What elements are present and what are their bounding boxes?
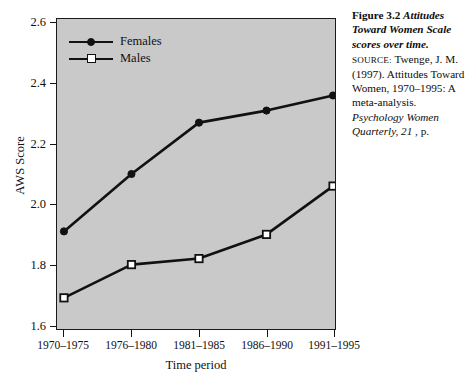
x-tick-mark <box>267 330 268 337</box>
data-point-males <box>329 182 335 189</box>
caption-source-line: SOURCE: Twenge, J. M. (1997). Attitudes … <box>352 52 468 138</box>
y-axis-title: AWS Score <box>13 121 28 211</box>
data-point-females <box>329 92 335 99</box>
figure-caption: Figure 3.2 Attitudes Toward Women Scale … <box>352 8 468 138</box>
source-journal: Psychology <box>352 111 404 123</box>
caption-title-line: Figure 3.2 Attitudes Toward Women Scale … <box>352 8 468 51</box>
legend-swatch-males <box>69 52 113 66</box>
y-tick-label: 1.8 <box>0 259 46 272</box>
x-tick-mark <box>131 330 132 337</box>
series-line-females <box>64 96 333 232</box>
data-point-females <box>128 170 135 177</box>
x-axis-title: Time period <box>56 358 336 373</box>
source-text-2: Women, 1970–1995: A meta-analysis. <box>352 82 455 108</box>
source-label: SOURCE: <box>352 55 392 65</box>
chart-legend: Females Males <box>69 33 162 67</box>
data-point-females <box>195 119 202 126</box>
y-tick-label: 2.6 <box>0 16 46 29</box>
legend-label-females: Females <box>120 35 162 48</box>
data-point-males <box>60 294 67 301</box>
y-tick-label: 1.6 <box>0 320 46 333</box>
y-tick-label: 2.4 <box>0 77 46 90</box>
legend-swatch-females <box>69 35 113 49</box>
data-point-females <box>60 228 67 235</box>
data-point-males <box>263 231 270 238</box>
figure-number: Figure 3.2 <box>352 9 400 21</box>
open-square-icon <box>87 54 96 63</box>
plot-area: Females Males <box>56 18 336 330</box>
legend-label-males: Males <box>120 52 151 65</box>
x-tick-mark <box>199 330 200 337</box>
data-point-males <box>128 261 135 268</box>
data-point-males <box>195 255 202 262</box>
legend-item-females: Females <box>69 33 162 50</box>
series-line-males <box>64 186 333 298</box>
x-tick-label: 1991–1995 <box>289 340 379 352</box>
filled-circle-icon <box>87 38 95 46</box>
x-tick-mark <box>63 330 64 337</box>
legend-item-males: Males <box>69 50 162 67</box>
source-tail: , p. <box>415 125 429 137</box>
chart-figure: 2.6 2.4 2.2 2.0 1.8 1.6 AWS Score <box>0 0 345 378</box>
x-tick-mark <box>334 330 335 337</box>
data-point-females <box>263 107 270 114</box>
